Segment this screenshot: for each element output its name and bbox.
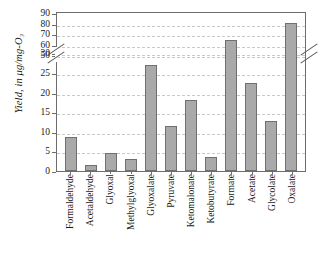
x-label-slot: Formate [221, 174, 241, 257]
y-tick-label: 70 [41, 30, 51, 40]
x-label-slot: Ketobutyrate [201, 174, 221, 257]
x-label-slot: Methylglyoxal [121, 174, 141, 257]
bar[interactable] [225, 40, 237, 172]
x-tick-label: Formate [226, 174, 236, 206]
bar-slot [161, 13, 181, 171]
y-tick-label: 60 [41, 41, 51, 51]
x-label-slot: Ketomalonate [181, 174, 201, 257]
bar[interactable] [65, 137, 77, 171]
bar-slot [141, 13, 161, 171]
y-axis: 0510152025305060708090 [0, 0, 56, 172]
x-label-slot: Acetate [242, 174, 262, 257]
y-tick-label: 10 [41, 128, 51, 138]
x-tick-label: Formaldehyde [65, 174, 75, 229]
bar[interactable] [145, 65, 157, 171]
x-tick-label: Glycolate [267, 174, 277, 211]
x-tick-label: Glyoxalate [146, 174, 156, 216]
bar-slot [221, 13, 241, 171]
bar[interactable] [185, 100, 197, 171]
bar[interactable] [105, 153, 117, 171]
bar-slot [261, 13, 281, 171]
x-tick-label: Oxalate [287, 174, 297, 204]
bar-slot [81, 13, 101, 171]
y-tick-label: 5 [45, 148, 50, 158]
x-tick-label: Glyoxal [105, 174, 115, 205]
bar[interactable] [265, 121, 277, 171]
x-axis: FormaldehydeAcetaldehydeGlyoxalMethylgly… [56, 174, 306, 257]
x-tick-label: Methylglyoxal [126, 174, 136, 230]
y-tick-label: 25 [41, 69, 51, 79]
y-tick-label: 15 [41, 108, 51, 118]
x-tick-label: Pyruvate [166, 174, 176, 208]
x-label-slot: Oxalate [282, 174, 302, 257]
x-label-slot: Glyoxal [100, 174, 120, 257]
y-tick-label: 20 [41, 89, 51, 99]
x-label-slot: Glyoxalate [141, 174, 161, 257]
bar-slot [241, 13, 261, 171]
x-label-slot: Formaldehyde [60, 174, 80, 257]
x-tick-label: Ketobutyrate [206, 174, 216, 224]
y-tick-label: 80 [41, 20, 51, 30]
bar-slot [121, 13, 141, 171]
x-label-slot: Acetaldehyde [80, 174, 100, 257]
bar[interactable] [205, 157, 217, 172]
y-tick-label: 90 [41, 9, 51, 19]
x-label-slot: Glycolate [262, 174, 282, 257]
bar-chart: Yield, in μg/mg-O₃ 051015202530506070809… [0, 0, 320, 257]
x-tick-label: Ketomalonate [186, 174, 196, 227]
bar-slot [181, 13, 201, 171]
y-tick-mark [52, 172, 56, 173]
y-tick-label: 0 [45, 167, 50, 177]
x-tick-label: Acetaldehyde [85, 174, 95, 226]
bar[interactable] [245, 83, 257, 171]
bar[interactable] [285, 23, 297, 171]
bar-slot [61, 13, 81, 171]
bar-slot [201, 13, 221, 171]
x-label-slot: Pyruvate [161, 174, 181, 257]
bars-layer [57, 13, 305, 171]
bar-slot [101, 13, 121, 171]
x-tick-label: Acetate [247, 174, 257, 203]
bar[interactable] [165, 126, 177, 171]
bar-slot [281, 13, 301, 171]
plot-area [56, 12, 306, 172]
